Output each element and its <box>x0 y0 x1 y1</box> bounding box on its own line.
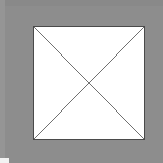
bottom-left-corner-notch <box>0 158 9 163</box>
diagonal-cross-icon <box>34 27 144 139</box>
placeholder-canvas <box>0 0 163 163</box>
left-shade-band <box>0 0 5 163</box>
top-shade-band <box>0 0 163 6</box>
missing-image-box <box>33 26 145 140</box>
